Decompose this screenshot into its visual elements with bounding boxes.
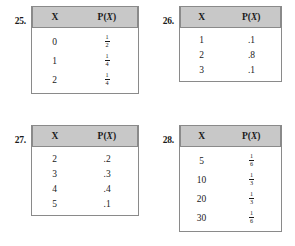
column-header-px: P(X) — [223, 7, 281, 28]
cell-px: .8 — [223, 47, 281, 62]
column-header-x: X — [33, 126, 77, 147]
table-row: 4 .4 — [33, 181, 138, 196]
column-header-x: X — [33, 7, 77, 28]
cell-x: 2 — [33, 147, 77, 167]
fraction: 16 — [249, 210, 254, 224]
cell-x: 5 — [181, 147, 223, 171]
table-row: 3 .3 — [33, 166, 138, 181]
table-header-row: X P(X) — [33, 7, 138, 28]
cell-px: .1 — [223, 62, 281, 81]
distribution-table-wrapper: X P(X) 0 12 1 14 2 14 — [31, 6, 139, 94]
distribution-table-wrapper: X P(X) 5 16 10 13 20 13 — [179, 125, 282, 232]
fraction: 16 — [249, 153, 254, 167]
column-header-px: P(X) — [77, 126, 138, 147]
distribution-table-wrapper: X P(X) 2 .2 3 .3 4 .4 — [31, 125, 139, 216]
table-header-row: X P(X) — [33, 126, 138, 147]
fraction: 12 — [105, 34, 110, 48]
table-row: 1 .1 — [181, 28, 281, 48]
table-row: 2 .2 — [33, 147, 138, 167]
px-prefix: P( — [98, 131, 107, 141]
cell-x: 20 — [181, 189, 223, 208]
table-row: 3 .1 — [181, 62, 281, 81]
distribution-table-wrapper: X P(X) 1 .1 2 .8 3 .1 — [179, 6, 282, 82]
fraction: 14 — [105, 53, 110, 67]
cell-px: .2 — [77, 147, 138, 167]
fraction: 13 — [249, 191, 254, 205]
table-head: X P(X) — [181, 7, 281, 28]
table-row: 5 16 — [181, 147, 281, 171]
cell-px: 16 — [223, 208, 281, 231]
cell-px: 14 — [77, 51, 138, 70]
table-row: 1 14 — [33, 51, 138, 70]
cell-x: 4 — [33, 181, 77, 196]
table-body: 5 16 10 13 20 13 30 16 — [181, 147, 281, 232]
cell-x: 0 — [33, 28, 77, 52]
px-prefix: P( — [242, 12, 251, 22]
px-suffix: ) — [257, 12, 260, 22]
table-head: X P(X) — [33, 126, 138, 147]
probability-distribution-table: X P(X) 2 .2 3 .3 4 .4 — [32, 125, 138, 215]
px-suffix: ) — [113, 131, 116, 141]
table-body: 2 .2 3 .3 4 .4 5 .1 — [33, 147, 138, 216]
probability-distribution-table: X P(X) 5 16 10 13 20 13 — [180, 125, 281, 231]
cell-x: 30 — [181, 208, 223, 231]
table-row: 20 13 — [181, 189, 281, 208]
problem-block-27: 27. X P(X) 2 .2 3 .3 — [4, 125, 139, 216]
cell-px: 12 — [77, 28, 138, 52]
probability-distribution-table: X P(X) 0 12 1 14 2 14 — [32, 6, 138, 93]
problem-number: 27. — [4, 125, 31, 146]
problem-number: 25. — [4, 6, 31, 27]
px-suffix: ) — [113, 12, 116, 22]
table-row: 5 .1 — [33, 196, 138, 215]
fraction-denominator: 2 — [105, 42, 110, 49]
table-row: 0 12 — [33, 28, 138, 52]
problem-number: 26. — [152, 6, 179, 27]
fraction-denominator: 6 — [249, 218, 254, 225]
column-header-x: X — [181, 126, 223, 147]
fraction-denominator: 4 — [105, 80, 110, 87]
table-body: 1 .1 2 .8 3 .1 — [181, 28, 281, 82]
probability-distribution-table: X P(X) 1 .1 2 .8 3 .1 — [180, 6, 281, 81]
px-prefix: P( — [242, 131, 251, 141]
exercise-grid: 25. X P(X) 0 12 1 14 — [0, 0, 295, 246]
cell-px: .1 — [223, 28, 281, 48]
fraction-denominator: 3 — [249, 199, 254, 206]
cell-x: 1 — [33, 51, 77, 70]
cell-x: 2 — [181, 47, 223, 62]
fraction-denominator: 3 — [249, 180, 254, 187]
cell-x: 5 — [33, 196, 77, 215]
table-row: 30 16 — [181, 208, 281, 231]
cell-px: 14 — [77, 70, 138, 93]
cell-x: 2 — [33, 70, 77, 93]
cell-x: 10 — [181, 170, 223, 189]
cell-x: 1 — [181, 28, 223, 48]
fraction-denominator: 4 — [105, 61, 110, 68]
cell-x: 3 — [181, 62, 223, 81]
column-header-px: P(X) — [223, 126, 281, 147]
table-row: 10 13 — [181, 170, 281, 189]
problem-block-25: 25. X P(X) 0 12 1 14 — [4, 6, 139, 94]
cell-px: .1 — [77, 196, 138, 215]
table-body: 0 12 1 14 2 14 — [33, 28, 138, 94]
column-header-x: X — [181, 7, 223, 28]
problem-block-26: 26. X P(X) 1 .1 2 .8 — [152, 6, 282, 82]
cell-px: 16 — [223, 147, 281, 171]
px-suffix: ) — [257, 131, 260, 141]
table-row: 2 .8 — [181, 47, 281, 62]
table-header-row: X P(X) — [181, 126, 281, 147]
table-head: X P(X) — [181, 126, 281, 147]
cell-px: 13 — [223, 189, 281, 208]
problem-number: 28. — [152, 125, 179, 146]
problem-block-28: 28. X P(X) 5 16 10 13 — [152, 125, 282, 232]
column-header-px: P(X) — [77, 7, 138, 28]
fraction-denominator: 6 — [249, 161, 254, 168]
fraction: 14 — [105, 72, 110, 86]
cell-x: 3 — [33, 166, 77, 181]
px-prefix: P( — [98, 12, 107, 22]
cell-px: .3 — [77, 166, 138, 181]
fraction: 13 — [249, 172, 254, 186]
table-head: X P(X) — [33, 7, 138, 28]
table-header-row: X P(X) — [181, 7, 281, 28]
cell-px: 13 — [223, 170, 281, 189]
cell-px: .4 — [77, 181, 138, 196]
